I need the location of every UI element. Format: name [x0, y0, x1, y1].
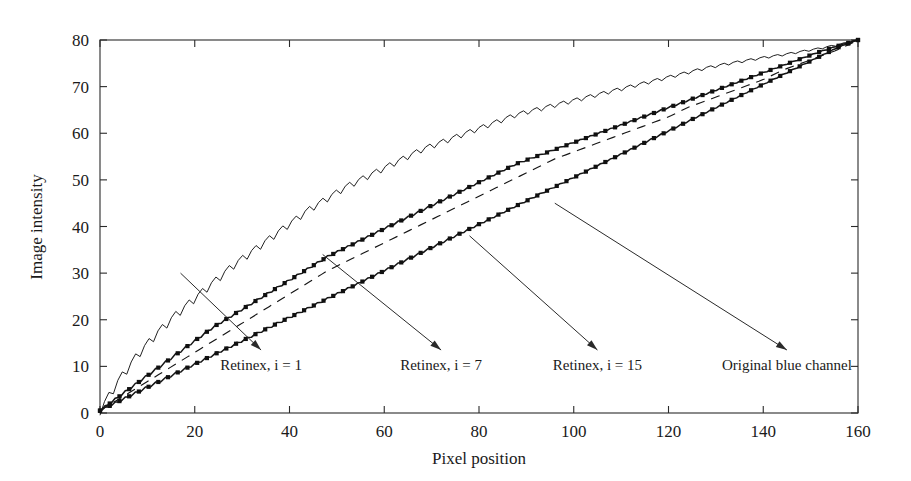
data-point-marker	[331, 252, 335, 256]
data-point-marker	[662, 131, 666, 135]
data-point-marker	[419, 251, 423, 255]
data-point-marker	[234, 342, 238, 346]
data-point-marker	[671, 126, 675, 130]
data-point-marker	[613, 155, 617, 159]
data-point-marker	[496, 213, 500, 217]
data-point-marker	[302, 308, 306, 312]
data-point-marker	[166, 358, 170, 362]
data-point-marker	[632, 118, 636, 122]
data-point-marker	[341, 247, 345, 251]
data-point-marker	[817, 50, 821, 54]
data-point-marker	[652, 111, 656, 115]
data-point-marker	[720, 103, 724, 107]
x-tick-label: 140	[751, 422, 777, 441]
data-point-marker	[467, 227, 471, 231]
data-point-marker	[321, 299, 325, 303]
data-point-marker	[137, 380, 141, 384]
data-point-marker	[817, 55, 821, 59]
data-point-marker	[448, 194, 452, 198]
x-tick-label: 160	[845, 422, 871, 441]
data-point-marker	[710, 89, 714, 93]
data-point-marker	[827, 50, 831, 54]
data-point-marker	[360, 237, 364, 241]
data-point-marker	[321, 257, 325, 261]
data-point-marker	[360, 279, 364, 283]
data-point-marker	[409, 256, 413, 260]
data-point-marker	[244, 305, 248, 309]
data-point-marker	[778, 64, 782, 68]
data-point-marker	[778, 74, 782, 78]
data-point-marker	[185, 366, 189, 370]
data-point-marker	[623, 150, 627, 154]
data-point-marker	[292, 275, 296, 279]
data-point-marker	[380, 270, 384, 274]
data-point-marker	[535, 154, 539, 158]
data-point-marker	[555, 147, 559, 151]
retinex-intensity-chart: 020406080100120140160 01020304050607080 …	[0, 0, 911, 481]
data-point-marker	[477, 180, 481, 184]
data-point-marker	[117, 399, 121, 403]
data-point-marker	[438, 199, 442, 203]
data-point-marker	[263, 327, 267, 331]
data-point-marker	[662, 107, 666, 111]
data-point-marker	[632, 146, 636, 150]
data-point-marker	[788, 61, 792, 65]
data-point-marker	[312, 263, 316, 267]
data-point-marker	[467, 185, 471, 189]
data-point-marker	[224, 346, 228, 350]
data-point-marker	[525, 198, 529, 202]
data-point-marker	[457, 190, 461, 194]
data-point-marker	[98, 409, 102, 413]
data-point-marker	[574, 174, 578, 178]
data-point-marker	[700, 112, 704, 116]
data-point-marker	[594, 132, 598, 136]
data-point-marker	[603, 160, 607, 164]
data-point-marker	[671, 104, 675, 108]
data-point-marker	[545, 150, 549, 154]
data-point-marker	[195, 361, 199, 365]
x-tick-label: 100	[561, 422, 587, 441]
series-annotation-label: Original blue channel	[722, 357, 852, 373]
y-tick-label: 40	[72, 218, 89, 237]
data-point-marker	[652, 136, 656, 140]
data-point-marker	[564, 179, 568, 183]
data-point-marker	[807, 59, 811, 63]
data-point-marker	[253, 299, 257, 303]
data-point-marker	[642, 141, 646, 145]
data-point-marker	[312, 303, 316, 307]
data-point-marker	[166, 375, 170, 379]
data-point-marker	[253, 332, 257, 336]
data-point-marker	[399, 218, 403, 222]
data-point-marker	[788, 69, 792, 73]
data-point-marker	[846, 41, 850, 45]
data-point-marker	[564, 143, 568, 147]
data-point-marker	[506, 208, 510, 212]
y-tick-labels: 01020304050607080	[72, 31, 89, 423]
data-point-marker	[351, 242, 355, 246]
data-point-marker	[419, 209, 423, 213]
data-point-marker	[759, 71, 763, 75]
x-axis-title: Pixel position	[432, 449, 526, 468]
data-point-marker	[642, 114, 646, 118]
data-point-marker	[807, 54, 811, 58]
data-point-marker	[341, 289, 345, 293]
x-tick-label: 60	[376, 422, 393, 441]
data-point-marker	[623, 122, 627, 126]
data-point-marker	[438, 241, 442, 245]
x-tick-label: 0	[96, 422, 105, 441]
data-point-marker	[574, 140, 578, 144]
data-point-marker	[749, 88, 753, 92]
data-point-marker	[487, 175, 491, 179]
data-point-marker	[759, 83, 763, 87]
data-point-marker	[215, 351, 219, 355]
data-point-marker	[389, 223, 393, 227]
data-point-marker	[681, 122, 685, 126]
data-point-marker	[730, 98, 734, 102]
data-point-marker	[700, 93, 704, 97]
data-point-marker	[798, 57, 802, 61]
data-point-marker	[428, 204, 432, 208]
x-tick-label: 80	[471, 422, 488, 441]
data-point-marker	[215, 323, 219, 327]
data-point-marker	[127, 394, 131, 398]
y-tick-label: 80	[72, 31, 89, 50]
